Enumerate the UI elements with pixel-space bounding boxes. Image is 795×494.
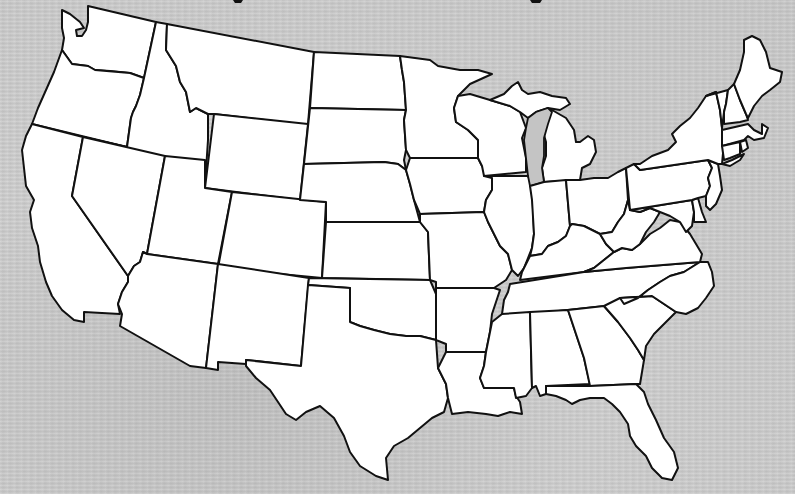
- state-NM[interactable]: [206, 264, 309, 370]
- state-KS[interactable]: [322, 222, 430, 280]
- state-IA[interactable]: [406, 158, 492, 214]
- state-SD[interactable]: [304, 108, 406, 170]
- title-fragment: [530, 0, 542, 3]
- state-FL[interactable]: [546, 384, 678, 480]
- state-CO[interactable]: [218, 192, 326, 278]
- state-NY[interactable]: [634, 92, 724, 170]
- map-canvas: [0, 0, 795, 494]
- state-ND[interactable]: [310, 52, 406, 110]
- title-fragment: [233, 0, 243, 3]
- state-AZ[interactable]: [118, 252, 218, 368]
- state-MI-lower[interactable]: [542, 110, 596, 182]
- state-WY[interactable]: [205, 114, 308, 200]
- state-DE[interactable]: [692, 198, 706, 222]
- state-RI[interactable]: [740, 140, 748, 152]
- us-outline-map: [0, 0, 795, 494]
